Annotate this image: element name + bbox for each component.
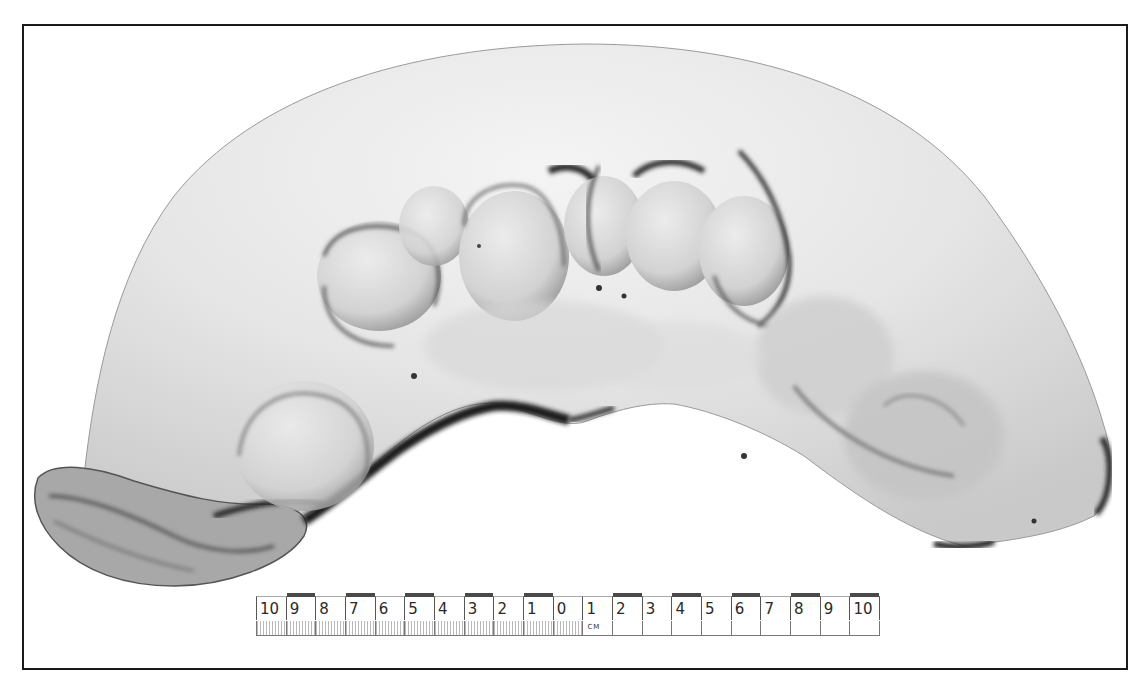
scale-label: 10 [849, 596, 880, 620]
scale-label: 10 [256, 596, 286, 620]
scale-label: 4 [434, 596, 464, 620]
scale-label: 9 [820, 596, 850, 620]
scale-bar-labels: 10 9 8 7 6 5 4 3 2 1 0 1 2 3 4 5 6 7 8 9… [256, 596, 880, 622]
scale-label: 3 [642, 596, 672, 620]
scale-label: 3 [464, 596, 494, 620]
scale-label: 2 [493, 596, 523, 620]
scale-label: 5 [701, 596, 731, 620]
scale-bar: 10 9 8 7 6 5 4 3 2 1 0 1 2 3 4 5 6 7 8 9… [256, 596, 880, 638]
scale-label: 8 [315, 596, 345, 620]
scale-label: 1 [523, 596, 553, 620]
scale-label: 6 [731, 596, 761, 620]
scale-label: 8 [790, 596, 820, 620]
scale-label: 0 [553, 596, 583, 620]
scale-label: 7 [760, 596, 790, 620]
specimen-photo [24, 26, 1128, 670]
scale-label: 4 [671, 596, 701, 620]
scale-label: 1 [582, 596, 612, 620]
scale-label: 7 [345, 596, 375, 620]
scale-unit-label: CM [587, 623, 600, 631]
scale-label: 2 [612, 596, 642, 620]
scale-bar-ticks: CM [256, 621, 880, 636]
scale-label: 5 [404, 596, 434, 620]
scale-label: 6 [375, 596, 405, 620]
scale-label: 9 [286, 596, 316, 620]
photo-frame: 10 9 8 7 6 5 4 3 2 1 0 1 2 3 4 5 6 7 8 9… [22, 24, 1128, 670]
